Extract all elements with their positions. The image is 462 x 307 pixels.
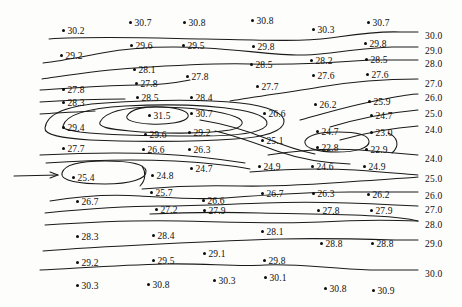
point-value-label: 25.4 xyxy=(77,173,94,183)
data-point: 27.9 xyxy=(370,207,393,217)
data-point: 28.2 xyxy=(310,57,333,67)
data-point: 29.5 xyxy=(152,257,175,267)
point-value-label: 25.7 xyxy=(155,188,172,198)
point-value-label: 26.7 xyxy=(81,197,98,207)
data-point: 24.7 xyxy=(316,128,339,138)
point-value-label: 26.3 xyxy=(317,189,334,199)
point-marker-dot xyxy=(182,44,185,47)
contour-26b-lower xyxy=(50,192,418,201)
point-marker-dot xyxy=(250,63,253,66)
point-value-label: 29.2 xyxy=(193,128,210,138)
contour-level-label: 25.0 xyxy=(425,110,442,120)
contour-level-label: 29.0 xyxy=(425,240,442,250)
point-value-label: 27.9 xyxy=(375,206,392,216)
point-marker-dot xyxy=(261,192,264,195)
contour-28-lower xyxy=(45,220,418,225)
contour-level-label: 30.0 xyxy=(425,32,442,42)
point-value-label: 24.9 xyxy=(263,162,280,172)
point-marker-dot xyxy=(62,101,65,104)
point-marker-dot xyxy=(371,242,374,245)
data-point: 24.7 xyxy=(370,112,393,122)
point-marker-dot xyxy=(312,28,315,31)
point-marker-dot xyxy=(152,259,155,262)
data-point: 26.3 xyxy=(188,146,211,156)
point-value-label: 28.3 xyxy=(67,98,84,108)
point-value-label: 24.9 xyxy=(368,162,385,172)
point-value-label: 28.3 xyxy=(81,232,98,242)
point-marker-dot xyxy=(155,208,158,211)
point-value-label: 28.5 xyxy=(370,55,387,65)
data-point: 27.8 xyxy=(135,80,158,90)
data-point: 25.1 xyxy=(261,137,284,147)
data-point: 26.2 xyxy=(314,101,337,111)
point-value-label: 29.8 xyxy=(369,39,386,49)
point-value-label: 24.7 xyxy=(195,164,212,174)
data-point: 23.0 xyxy=(370,129,393,139)
point-value-label: 27.2 xyxy=(160,205,177,215)
data-point: 24.6 xyxy=(311,163,334,173)
point-value-label: 29.8 xyxy=(257,42,274,52)
data-point: 26.6 xyxy=(142,146,165,156)
point-value-label: 27.8 xyxy=(67,85,84,95)
data-point: 29.8 xyxy=(364,40,387,50)
point-marker-dot xyxy=(213,279,216,282)
point-marker-dot xyxy=(364,42,367,45)
point-marker-dot xyxy=(370,114,373,117)
point-marker-dot xyxy=(183,21,186,24)
point-marker-dot xyxy=(263,259,266,262)
point-value-label: 24.7 xyxy=(321,127,338,137)
point-value-label: 30.2 xyxy=(67,26,84,36)
point-marker-dot xyxy=(62,29,65,32)
point-value-label: 25.9 xyxy=(373,97,390,107)
point-marker-dot xyxy=(316,146,319,149)
data-point: 26.7 xyxy=(261,190,284,200)
data-point: 22.8 xyxy=(316,144,339,154)
point-marker-dot xyxy=(202,199,205,202)
point-value-label: 29.6 xyxy=(135,41,152,51)
point-value-label: 24.7 xyxy=(375,111,392,121)
point-marker-dot xyxy=(133,68,136,71)
point-value-label: 30.8 xyxy=(256,16,273,26)
point-marker-dot xyxy=(366,73,369,76)
data-point: 30.7 xyxy=(129,19,152,29)
point-value-label: 27.7 xyxy=(261,82,278,92)
point-marker-dot xyxy=(312,74,315,77)
point-marker-dot xyxy=(147,283,150,286)
data-point: 29.2 xyxy=(76,259,99,269)
point-value-label: 26.6 xyxy=(268,109,285,119)
point-value-label: 27.6 xyxy=(317,71,334,81)
point-value-label: 27.9 xyxy=(208,206,225,216)
point-value-label: 28.4 xyxy=(157,231,174,241)
point-marker-dot xyxy=(72,176,75,179)
data-point: 29.2 xyxy=(60,52,83,62)
data-point: 30.7 xyxy=(190,110,213,120)
data-point: 30.8 xyxy=(324,285,347,295)
point-marker-dot xyxy=(372,289,375,292)
point-marker-dot xyxy=(188,131,191,134)
data-point: 27.6 xyxy=(312,72,335,82)
contour-29-lower xyxy=(43,239,418,251)
point-marker-dot xyxy=(320,242,323,245)
point-marker-dot xyxy=(261,230,264,233)
point-value-label: 26.2 xyxy=(372,190,389,200)
data-point: 29.2 xyxy=(188,129,211,139)
contour-level-label: 26.0 xyxy=(425,94,442,104)
point-value-label: 27.6 xyxy=(371,70,388,80)
point-marker-dot xyxy=(258,165,261,168)
point-value-label: 30.1 xyxy=(269,273,286,283)
data-point: 27.2 xyxy=(155,206,178,216)
point-value-label: 26.3 xyxy=(193,145,210,155)
contour-level-label: 24.0 xyxy=(425,126,442,136)
data-point: 29.8 xyxy=(252,43,275,53)
point-value-label: 26.7 xyxy=(266,189,283,199)
data-point: 28.5 xyxy=(136,94,159,104)
point-value-label: 30.8 xyxy=(329,284,346,294)
data-point: 28.4 xyxy=(152,232,175,242)
data-point: 26.6 xyxy=(263,110,286,120)
data-point: 24.9 xyxy=(258,163,281,173)
point-value-label: 28.1 xyxy=(266,227,283,237)
point-value-label: 27.8 xyxy=(191,72,208,82)
point-value-label: 26.6 xyxy=(147,145,164,155)
point-value-label: 29.4 xyxy=(67,123,84,133)
point-marker-dot xyxy=(365,148,368,151)
